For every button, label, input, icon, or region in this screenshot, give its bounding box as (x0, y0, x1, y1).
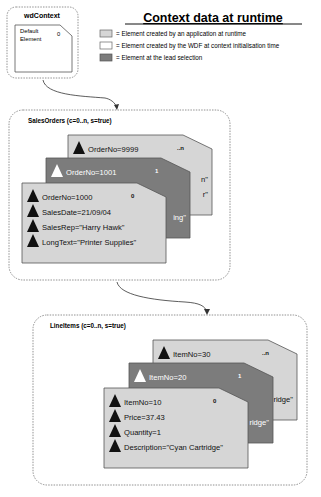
lineitems-element-card-0: 0ItemNo=10Price=37.43Quantity=1Descripti… (104, 388, 248, 468)
attribute-text: Quantity=1 (124, 428, 161, 437)
default-element-index: 0 (57, 31, 60, 37)
connector-salesorders-to-lineitems (117, 282, 207, 312)
attribute-text: ItemNo=10 (124, 398, 161, 407)
attribute-text: ItemNo=30 (173, 350, 210, 359)
lineitems-cards: ..nItemNo=30ridge"1ItemNo=20ridge"0ItemN… (104, 340, 297, 468)
legend-label-white: = Element created by the WDF at context … (116, 42, 280, 50)
diagram-title: Context data at runtime (143, 11, 283, 25)
default-element-line1: Default (20, 28, 39, 34)
attribute-text: OrderNo=1000 (42, 193, 92, 202)
card-index: ..n (262, 350, 269, 356)
arrowhead-icon (204, 309, 210, 315)
legend-swatch-white (100, 42, 112, 49)
legend-label-dark: = Element at the lead selection (116, 54, 203, 61)
attribute-text: ItemNo=20 (149, 373, 186, 382)
legend: = Element created by an application at r… (100, 30, 280, 61)
attribute-text: LongText="Printer Supplies" (42, 238, 137, 247)
salesorders-cards: ..nOrderNo=9999n"r"1OrderNo=1001ing"0Ord… (22, 135, 212, 263)
attribute-text: Description="Cyan Cartridge" (124, 443, 223, 452)
salesorders-label: SalesOrders (c=0..n, s=true) (28, 117, 112, 125)
connector-root-to-salesorders (43, 80, 117, 108)
attribute-text-peek: r" (203, 190, 209, 199)
legend-swatch-dark (100, 54, 112, 61)
attribute-text: SalesRep="Harry Hawk" (42, 223, 125, 232)
attribute-text-peek: ing" (173, 213, 186, 222)
attribute-text: SalesDate=21/09/04 (42, 208, 111, 217)
legend-swatch-light (100, 30, 112, 37)
arrowhead-icon (114, 104, 119, 110)
legend-label-light: = Element created by an application at r… (116, 30, 247, 38)
attribute-text: OrderNo=9999 (88, 145, 138, 154)
attribute-text-peek: ridge" (273, 395, 293, 404)
wdcontext-label: wdContext (23, 12, 60, 19)
lineitems-node: LineItems (c=0..n, s=true) ..nItemNo=30r… (33, 315, 307, 485)
salesorders-node: SalesOrders (c=0..n, s=true) ..nOrderNo=… (9, 110, 230, 280)
lineitems-label: LineItems (c=0..n, s=true) (50, 322, 126, 330)
default-element-line2: Element (20, 36, 42, 42)
attribute-text-peek: ridge" (249, 418, 269, 427)
card-index: ..n (177, 145, 184, 151)
attribute-text: Price=37.43 (124, 413, 165, 422)
salesorders-element-card-0: 0OrderNo=1000SalesDate=21/09/04SalesRep=… (22, 183, 166, 263)
attribute-text-peek: n" (201, 175, 208, 184)
wdcontext-node: wdContext Default Element 0 (7, 7, 78, 78)
attribute-text: OrderNo=1001 (66, 168, 116, 177)
context-diagram: Context data at runtime = Element create… (0, 0, 321, 497)
